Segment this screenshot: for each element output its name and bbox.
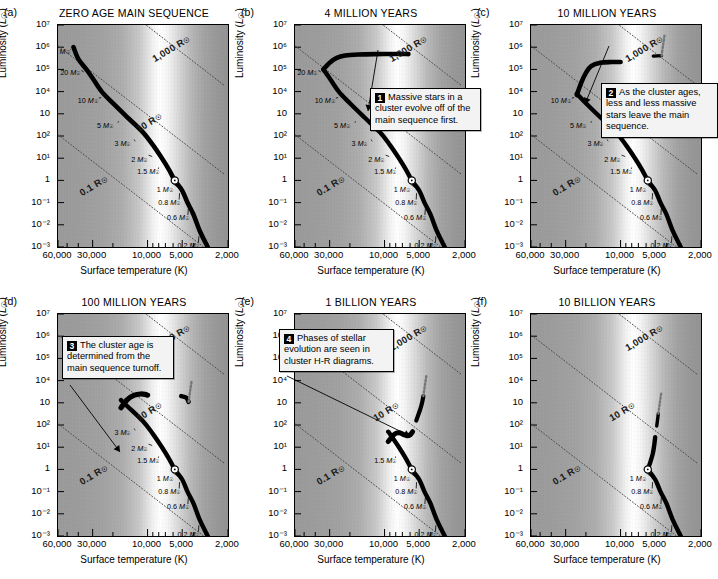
y-tick-label: 10¹	[36, 151, 50, 162]
radius-contour-label: 0.1 R☉	[77, 462, 109, 487]
x-tick-label: 2,000	[215, 249, 239, 260]
mass-label: 0.6 M☉	[404, 213, 426, 222]
y-tick-label: 10¹	[273, 440, 287, 451]
mass-label: 0.8 M☉	[631, 198, 653, 207]
mass-label: 0.8 M☉	[395, 487, 417, 496]
mass-label: 1.5 M☉	[610, 167, 632, 176]
mass-label: 0.2 M☉	[650, 241, 672, 248]
x-tick-label: 30,000	[77, 538, 106, 549]
radius-contour-label: 1,000 R☉	[623, 33, 664, 64]
mass-label: 0.2 M☉	[414, 530, 436, 537]
mass-label: 1 M☉	[394, 185, 410, 194]
radius-contour-label: 1,000 R☉	[623, 322, 664, 353]
mass-label: 5 M☉	[334, 121, 350, 130]
panel-title: 10 MILLION YEARS	[507, 7, 707, 19]
x-tick-labels: 60,00030,00010,0005,0002,000	[237, 538, 474, 552]
y-tick-label: 10²	[36, 418, 50, 429]
y-tick-label: 10⁶	[273, 40, 287, 51]
radius-contour-label: 0.1 R☉	[550, 462, 582, 487]
radius-contour-label: 0.1 R☉	[77, 173, 109, 198]
mass-label: 60 M☉	[57, 47, 70, 56]
y-tick-label: 10⁻²	[268, 218, 287, 229]
y-tick-label: 1	[282, 173, 287, 184]
mass-label: 10 M☉	[78, 96, 98, 105]
callout-number: 4	[284, 334, 294, 344]
x-tick-label: 30,000	[314, 249, 343, 260]
callout-number: 3	[67, 341, 77, 351]
x-tick-label: 5,000	[642, 249, 666, 260]
y-tick-label: 10⁷	[36, 18, 50, 29]
mass-label: 3 M☉	[587, 139, 603, 148]
y-tick-label: 10⁳	[39, 396, 50, 407]
x-axis-title: Surface temperature (K)	[34, 554, 234, 565]
y-axis-title: Luminosity (L☉)	[470, 297, 482, 367]
mass-label: 1.5 M☉	[374, 167, 396, 176]
x-tick-label: 30,000	[550, 538, 579, 549]
callout-text: As the cluster ages, less and less massi…	[606, 87, 701, 131]
x-axis-title: Surface temperature (K)	[271, 554, 471, 565]
callout-3: 3The cluster age is determined from the …	[62, 336, 174, 379]
x-tick-label: 10,000	[369, 538, 398, 549]
x-axis-title: Surface temperature (K)	[507, 554, 707, 565]
x-tick-label: 5,000	[169, 249, 193, 260]
x-axis-title: Surface temperature (K)	[271, 265, 471, 276]
x-axis-title: Surface temperature (K)	[34, 265, 234, 276]
x-tick-label: 5,000	[169, 538, 193, 549]
mass-label: 2 M☉	[604, 155, 620, 164]
y-tick-label: 10²	[273, 129, 287, 140]
callout-text: The cluster age is determined from the m…	[67, 340, 161, 373]
callout-number: 2	[606, 88, 616, 98]
mass-label: 0.8 M☉	[158, 487, 180, 496]
mass-label: 1 M☉	[630, 474, 646, 483]
y-tick-label: 10⁻¹	[504, 196, 523, 207]
mass-label: 0.2 M☉	[177, 241, 199, 248]
y-tick-label: 10²	[273, 418, 287, 429]
radius-contour-label: 0.1 R☉	[550, 173, 582, 198]
y-tick-label: 10⁳	[512, 107, 523, 118]
y-tick-label: 10⁻¹	[31, 485, 50, 496]
x-tick-label: 5,000	[406, 249, 430, 260]
callout-number: 1	[375, 93, 385, 103]
y-axis-title: Luminosity (L☉)	[234, 297, 246, 367]
y-tick-label: 10⁴	[272, 85, 287, 96]
mass-label: 3 M☉	[114, 428, 130, 437]
mass-label: 2 M☉	[131, 155, 147, 164]
x-tick-label: 60,000	[515, 538, 544, 549]
radius-contour-label: 1,000 R☉	[387, 33, 428, 64]
y-tick-label: 10⁻¹	[268, 485, 287, 496]
panel-title: 100 MILLION YEARS	[34, 296, 234, 308]
hr-panel-d: (d) 100 MILLION YEARS 10⁷10⁶10⁵10⁴10⁳10²…	[0, 289, 237, 579]
mass-label: 1.5 M☉	[137, 456, 159, 465]
radius-contour-label: 0.1 R☉	[314, 462, 346, 487]
y-tick-label: 10⁻²	[504, 507, 523, 518]
mass-label: 1.5 M☉	[374, 456, 396, 465]
y-tick-label: 10⁵	[508, 351, 523, 362]
x-tick-label: 30,000	[550, 249, 579, 260]
hr-panel-f: (f) 10 BILLION YEARS 10⁷10⁶10⁵10⁴10⁳10²1…	[473, 289, 710, 579]
hr-panel-a: (a) ZERO AGE MAIN SEQUENCE 10⁷10⁶10⁵10⁴1…	[0, 0, 237, 290]
y-tick-label: 10⁷	[273, 307, 287, 318]
panel-title: 1 BILLION YEARS	[271, 296, 471, 308]
radius-contour-label: 1,000 R☉	[150, 33, 191, 64]
x-tick-label: 2,000	[215, 538, 239, 549]
mass-label: 0.8 M☉	[631, 487, 653, 496]
plot-label-layer: 1,000 R☉10 R☉0.1 R☉1 M☉0.8 M☉0.6 M☉0.2 M…	[531, 314, 701, 536]
mass-label: 0.2 M☉	[650, 530, 672, 537]
y-tick-label: 1	[282, 462, 287, 473]
panel-title: ZERO AGE MAIN SEQUENCE	[34, 7, 234, 19]
y-tick-label: 10⁻¹	[504, 485, 523, 496]
y-axis-title: Luminosity (L☉)	[234, 8, 246, 78]
x-tick-label: 10,000	[369, 249, 398, 260]
plot-label-layer: 1,000 R☉10 R☉0.1 R☉20 M☉10 M☉5 M☉3 M☉2 M…	[295, 25, 465, 247]
mass-label: 1 M☉	[157, 185, 173, 194]
y-tick-label: 10⁷	[273, 18, 287, 29]
x-tick-label: 2,000	[688, 249, 712, 260]
x-tick-label: 60,000	[42, 538, 71, 549]
mass-label: 1 M☉	[157, 474, 173, 483]
callout-text: Phases of stellar evolution are seen in …	[284, 333, 374, 366]
y-tick-label: 10⁳	[276, 107, 287, 118]
y-tick-label: 10²	[36, 129, 50, 140]
mass-label: 0.6 M☉	[167, 502, 189, 511]
x-tick-label: 30,000	[77, 249, 106, 260]
mass-label: 0.6 M☉	[167, 213, 189, 222]
